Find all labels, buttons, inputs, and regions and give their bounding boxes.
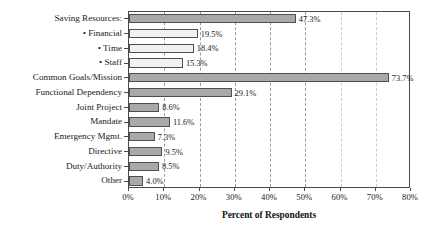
category-label: Common Goals/Mission	[33, 70, 122, 85]
category-label: Emergency Mgmt.	[54, 129, 122, 144]
row-tick	[124, 77, 128, 78]
category-label: • Staff	[99, 55, 122, 70]
row-tick	[124, 18, 128, 19]
row-tick	[124, 166, 128, 167]
x-tick-label: 60%	[332, 192, 348, 203]
bar-value-label: 29.1%	[235, 88, 257, 99]
row-tick	[124, 92, 128, 93]
bar	[129, 176, 143, 185]
x-tick	[128, 188, 129, 191]
x-tick-label: 20%	[191, 192, 207, 203]
bar-chart: Saving Resources:• Financial• Time• Staf…	[0, 0, 425, 235]
bar-row: 73.7%	[129, 71, 409, 86]
x-tick	[304, 188, 305, 191]
row-tick	[124, 122, 128, 123]
bar	[129, 162, 159, 171]
bar-value-label: 73.7%	[392, 73, 414, 84]
category-label: • Time	[98, 41, 122, 56]
row-tick	[124, 107, 128, 108]
x-tick-label: 70%	[367, 192, 383, 203]
x-tick	[340, 188, 341, 191]
bar-row: 9.5%	[129, 145, 409, 160]
bar	[129, 14, 296, 23]
bar-value-label: 4.0%	[146, 176, 163, 187]
x-tick	[269, 188, 270, 191]
x-axis-title: Percent of Respondents	[128, 210, 410, 220]
bar-value-label: 7.3%	[158, 132, 175, 143]
bar-row: 19.5%	[129, 27, 409, 42]
row-tick	[124, 48, 128, 49]
bar-value-label: 8.6%	[162, 102, 179, 113]
row-tick	[124, 136, 128, 137]
category-label: Saving Resources:	[55, 11, 122, 26]
bar-value-label: 15.3%	[186, 58, 208, 69]
category-label: Other	[101, 173, 122, 188]
bar-row: 4.0%	[129, 174, 409, 189]
bar-value-label: 9.5%	[165, 147, 182, 158]
bar-value-label: 47.3%	[299, 14, 321, 25]
bar	[129, 58, 183, 67]
bar	[129, 73, 389, 82]
row-tick	[124, 181, 128, 182]
category-label: Mandate	[90, 114, 122, 129]
category-label: • Financial	[83, 26, 122, 41]
x-tick	[199, 188, 200, 191]
bar	[129, 103, 159, 112]
category-label: Joint Project	[76, 100, 122, 115]
category-label: Directive	[88, 144, 122, 159]
category-label: Functional Dependency	[35, 85, 122, 100]
bar-row: 29.1%	[129, 86, 409, 101]
row-tick	[124, 63, 128, 64]
bar-row: 8.6%	[129, 101, 409, 116]
bar	[129, 132, 155, 141]
x-tick	[163, 188, 164, 191]
bar-value-label: 11.6%	[173, 117, 194, 128]
bar	[129, 44, 194, 53]
bar-row: 7.3%	[129, 130, 409, 145]
bar-row: 11.6%	[129, 115, 409, 130]
x-tick-label: 40%	[261, 192, 277, 203]
plot-area: 47.3%19.5%18.4%15.3%73.7%29.1%8.6%11.6%7…	[128, 11, 410, 188]
x-tick	[234, 188, 235, 191]
bar-row: 47.3%	[129, 12, 409, 27]
bar-value-label: 8.5%	[162, 161, 179, 172]
bar-row: 15.3%	[129, 56, 409, 71]
x-tick-label: 0%	[122, 192, 133, 203]
bar	[129, 117, 170, 126]
bar-value-label: 18.4%	[197, 43, 219, 54]
bar-value-label: 19.5%	[201, 29, 223, 40]
bar-row: 8.5%	[129, 160, 409, 175]
bar	[129, 88, 232, 97]
x-tick-label: 10%	[155, 192, 171, 203]
category-label: Duty/Authority	[66, 159, 122, 174]
x-tick	[410, 188, 411, 191]
bar-row: 18.4%	[129, 42, 409, 57]
row-tick	[124, 33, 128, 34]
bar	[129, 147, 162, 156]
bar	[129, 29, 198, 38]
row-tick	[124, 151, 128, 152]
x-tick-label: 80%	[402, 192, 418, 203]
x-tick-label: 30%	[226, 192, 242, 203]
x-tick-label: 50%	[296, 192, 312, 203]
y-axis-category-labels: Saving Resources:• Financial• Time• Staf…	[0, 11, 126, 188]
bar-series: 47.3%19.5%18.4%15.3%73.7%29.1%8.6%11.6%7…	[129, 12, 409, 187]
x-tick	[375, 188, 376, 191]
